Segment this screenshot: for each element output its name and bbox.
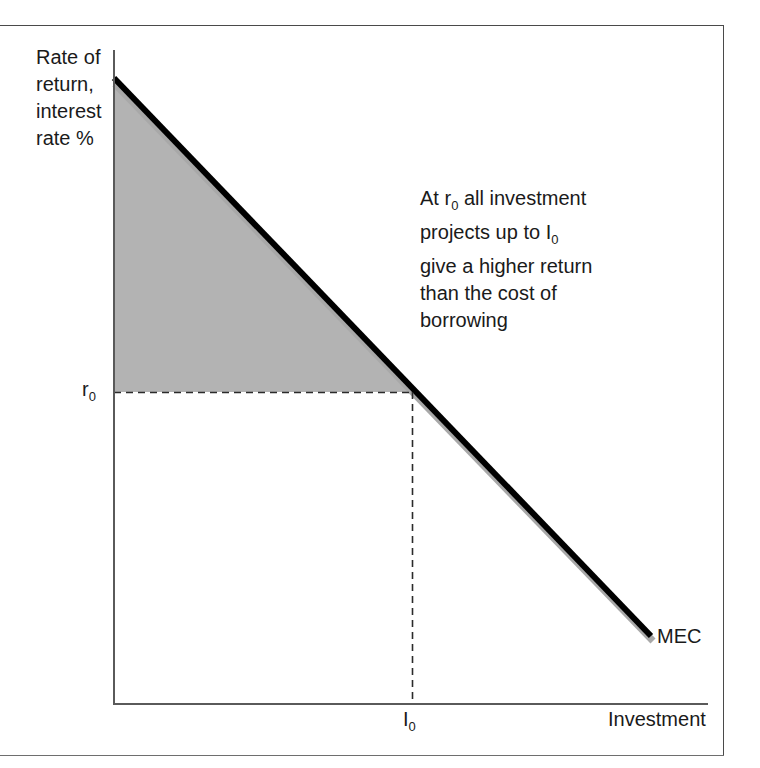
y-axis-label-line-1: Rate of (36, 44, 114, 71)
annotation-line-2-subscript: 0 (551, 232, 558, 247)
surplus-shaded-region (115, 80, 412, 392)
annotation-line-1-pre: At r (420, 187, 451, 209)
frame-top-border (0, 25, 724, 26)
x-axis-label: Investment (608, 708, 706, 731)
annotation-line-5: borrowing (420, 307, 650, 334)
frame-right-border (723, 25, 724, 756)
annotation-line-1: At r0 all investment (420, 185, 650, 219)
y-axis-label: Rate of return, interest rate % (36, 44, 114, 152)
frame-bottom-border (0, 755, 724, 756)
mec-curve-label: MEC (657, 625, 701, 648)
x-axis-line (113, 703, 708, 705)
annotation-line-1-post: all investment (458, 187, 586, 209)
annotation-line-3: give a higher return (420, 253, 650, 280)
x-axis-tick-i0: I0 (403, 708, 416, 734)
y-axis-label-line-2: return, (36, 71, 114, 98)
y-axis-tick-r0: r0 (82, 378, 96, 404)
y-axis-label-line-4: rate % (36, 125, 114, 152)
figure-container: Rate of return, interest rate % At r0 al… (0, 0, 760, 768)
annotation-line-2: projects up to I0 (420, 219, 650, 253)
annotation-line-2-pre: projects up to I (420, 221, 551, 243)
mec-line-shadow (115, 84, 653, 641)
mec-line (114, 78, 651, 636)
y-axis-tick-r0-base: r (82, 378, 89, 400)
y-axis-tick-r0-subscript: 0 (89, 389, 96, 404)
annotation-line-4: than the cost of (420, 280, 650, 307)
x-axis-tick-i0-subscript: 0 (409, 719, 416, 734)
y-axis-label-line-3: interest (36, 98, 114, 125)
chart-annotation: At r0 all investment projects up to I0 g… (420, 185, 650, 334)
